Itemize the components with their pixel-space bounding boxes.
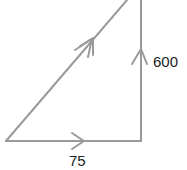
resultant-double-arrow-icon-1	[75, 39, 92, 57]
vector-triangle-diagram: 600 75	[0, 0, 187, 170]
vertical-arrow-icon	[132, 49, 147, 64]
horizontal-vector-label: 75	[69, 152, 86, 169]
vertical-vector-label: 600	[153, 53, 178, 70]
resultant-vector-line	[6, 0, 127, 141]
